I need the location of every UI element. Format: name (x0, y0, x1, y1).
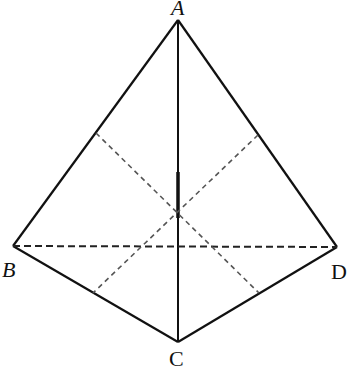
label-d: D (331, 259, 347, 284)
midline-2 (93, 135, 258, 293)
label-b: B (2, 257, 15, 282)
edge-bc (13, 246, 178, 342)
diagram-canvas: A B C D (0, 0, 347, 372)
tetrahedron-figure: A B C D (0, 0, 347, 372)
label-c: C (169, 346, 184, 371)
label-a: A (169, 0, 185, 20)
edge-bd-hidden (13, 246, 337, 247)
edge-cd (178, 247, 337, 342)
edge-ab (13, 20, 178, 246)
edge-ad (178, 20, 337, 247)
